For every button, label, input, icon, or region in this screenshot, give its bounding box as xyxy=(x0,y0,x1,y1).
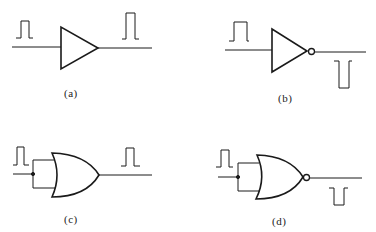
inversion-bubble-icon xyxy=(304,175,310,181)
logic-gate-diagram: (a) (b) (c) (d) xyxy=(0,0,376,232)
input-pulse-icon xyxy=(13,147,29,165)
input-pulse-icon xyxy=(229,22,249,41)
tied-input-branches xyxy=(238,163,260,191)
panel-d-label: (d) xyxy=(272,215,286,227)
panel-a-label: (a) xyxy=(64,87,78,99)
panel-c-label: (c) xyxy=(64,213,78,225)
tied-input-branches xyxy=(33,160,55,188)
panel-d-nor xyxy=(216,150,362,205)
panel-a-buffer xyxy=(12,13,152,69)
inverter-gate-icon xyxy=(272,29,307,72)
output-pulse-icon xyxy=(121,148,140,166)
inversion-bubble-icon xyxy=(309,49,315,55)
output-inverted-pulse-icon xyxy=(334,61,352,88)
panel-b-label: (b) xyxy=(278,92,292,104)
input-pulse-icon xyxy=(16,21,33,38)
input-pulse-icon xyxy=(216,150,233,167)
diagram-graphics xyxy=(0,0,376,232)
or-gate-icon xyxy=(52,153,99,197)
panel-c-or xyxy=(13,147,152,197)
nor-gate-icon xyxy=(256,155,303,199)
buffer-gate-icon xyxy=(61,27,98,69)
output-pulse-icon xyxy=(122,13,139,39)
output-inverted-pulse-icon xyxy=(329,188,348,205)
panel-b-inverter xyxy=(225,22,366,88)
